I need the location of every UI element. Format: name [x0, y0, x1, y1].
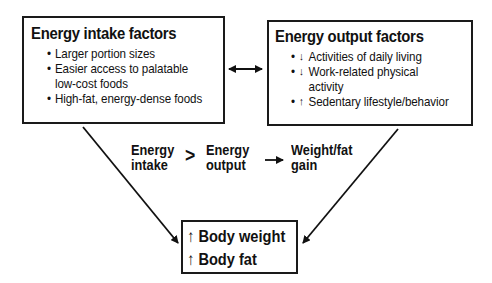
list-item: Larger portion sizes [47, 46, 197, 61]
up-arrow-icon: ↑ [299, 94, 304, 109]
energy-output-box: Energy output factors ↓Activities of dai… [267, 20, 473, 126]
body-weight-label: ↑ Body weight [187, 225, 281, 248]
list-item-continuation: activity [291, 79, 449, 94]
list-item: Easier access to palatable [47, 61, 197, 76]
up-arrow-icon: ↑ [187, 250, 194, 269]
list-item: ↓Activities of daily living [291, 49, 449, 64]
equation-energy-output: Energy output [206, 143, 249, 173]
equation-weight-fat-gain: Weight/fat gain [291, 143, 352, 173]
up-arrow-icon: ↑ [187, 227, 194, 246]
down-arrow-icon: ↓ [299, 49, 304, 64]
output-title: Energy output factors [275, 27, 451, 46]
intake-list: Larger portion sizes Easier access to pa… [31, 46, 217, 106]
body-weight-fat-box: ↑ Body weight ↑ Body fat [181, 220, 298, 274]
down-arrow-icon: ↓ [299, 64, 304, 79]
list-item-continuation: low-cost foods [47, 76, 197, 91]
greater-than-symbol: > [185, 148, 195, 163]
list-item: ↓Work-related physical [291, 64, 449, 79]
intake-title: Energy intake factors [31, 24, 198, 43]
list-item: ↑Sedentary lifestyle/behavior [291, 94, 449, 109]
output-list: ↓Activities of daily living ↓Work-relate… [275, 49, 471, 109]
body-fat-label: ↑ Body fat [187, 248, 281, 271]
energy-intake-box: Energy intake factors Larger portion siz… [22, 16, 225, 124]
list-item: High-fat, energy-dense foods [47, 91, 197, 106]
equation-energy-intake: Energy intake [131, 143, 174, 173]
